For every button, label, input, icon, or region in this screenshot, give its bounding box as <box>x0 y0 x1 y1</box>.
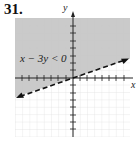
inequality-plot <box>0 0 140 148</box>
y-axis-arrow-icon <box>71 11 75 17</box>
inequality-label: x − 3y < 0 <box>20 52 67 64</box>
